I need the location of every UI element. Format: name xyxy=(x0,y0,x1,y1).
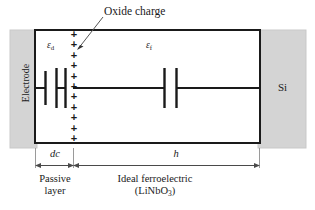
ferroelectric-caption: Ideal ferroelectric (LiNbO3) xyxy=(100,173,210,200)
oxide-charge-plus: + xyxy=(71,40,77,48)
oxide-charge-plus: + xyxy=(71,103,77,111)
epsilon-d-subscript: d xyxy=(51,44,54,51)
oxide-charge-plus: + xyxy=(71,92,77,100)
dimension-label-dc: dc xyxy=(43,149,67,160)
permittivity-ferro-label: εf xyxy=(146,41,152,51)
electrode-label: Electrode xyxy=(21,50,31,116)
passive-layer-caption: Passive layer xyxy=(23,173,87,197)
ferroelectric-capacitor-diagram: Oxide charge εd εf Electrode Si ++++++++… xyxy=(0,0,315,210)
oxide-charge-plus: + xyxy=(71,51,77,59)
ferroelectric-line-1: Ideal ferroelectric xyxy=(100,173,210,185)
oxide-charge-plus: + xyxy=(71,72,77,80)
permittivity-passive-label: εd xyxy=(47,41,54,51)
oxide-charge-plus: + xyxy=(71,30,77,38)
oxide-charge-plus: + xyxy=(71,82,77,90)
ferroelectric-line-2: (LiNbO3) xyxy=(100,185,210,200)
ferroelectric-formula-post: ) xyxy=(172,185,176,196)
oxide-charge-column: +++++++++++ xyxy=(67,30,81,142)
passive-layer-line-1: Passive xyxy=(23,173,87,185)
silicon-label: Si xyxy=(278,82,287,93)
oxide-charge-annotation: Oxide charge xyxy=(104,6,165,18)
passive-layer-line-2: layer xyxy=(23,185,87,197)
epsilon-f-subscript: f xyxy=(150,44,152,51)
oxide-charge-plus: + xyxy=(71,124,77,132)
oxide-charge-plus: + xyxy=(71,134,77,142)
oxide-charge-plus: + xyxy=(71,61,77,69)
ferroelectric-formula-pre: (LiNbO xyxy=(135,185,168,196)
oxide-charge-plus: + xyxy=(71,113,77,121)
dimension-label-h: h xyxy=(168,149,184,160)
